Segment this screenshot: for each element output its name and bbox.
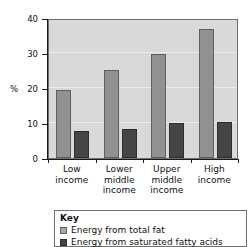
- y-tick-label: 40: [16, 15, 38, 23]
- x-axis-line: [42, 159, 239, 160]
- x-tick-mark: [238, 159, 239, 163]
- y-tick-label: 20: [16, 85, 38, 93]
- bars-layer: [49, 20, 237, 158]
- bar-light-4: [199, 29, 214, 158]
- legend: Key Energy from total fat Energy from sa…: [54, 210, 247, 247]
- x-axis-label-4: Highincome: [186, 164, 242, 185]
- bar-light-3: [151, 54, 166, 158]
- bar-light-2: [104, 70, 119, 158]
- legend-label-total-fat: Energy from total fat: [71, 225, 165, 236]
- x-tick-mark: [191, 159, 192, 163]
- plot-area: [48, 19, 238, 159]
- bar-dark-2: [122, 129, 137, 158]
- bar-dark-4: [217, 122, 232, 158]
- bar-chart: % 010203040 LowincomeLowermiddleincomeUp…: [0, 0, 251, 247]
- y-axis-line: [47, 19, 48, 160]
- x-tick-mark: [96, 159, 97, 163]
- x-tick-mark: [48, 159, 49, 163]
- bar-dark-3: [169, 123, 184, 158]
- legend-title: Key: [60, 213, 246, 224]
- legend-swatch-icon-saturated-fat: [60, 239, 67, 246]
- y-tick-label: 0: [16, 155, 38, 163]
- bar-light-1: [56, 90, 71, 158]
- legend-item-saturated-fat: Energy from saturated fatty acids: [60, 237, 246, 247]
- legend-item-total-fat: Energy from total fat: [60, 225, 246, 236]
- bar-dark-1: [74, 131, 89, 158]
- legend-label-saturated-fat: Energy from saturated fatty acids: [71, 237, 223, 247]
- legend-swatch-icon-total-fat: [60, 227, 67, 234]
- y-tick-label: 30: [16, 50, 38, 58]
- y-tick-label: 10: [16, 120, 38, 128]
- x-tick-mark: [143, 159, 144, 163]
